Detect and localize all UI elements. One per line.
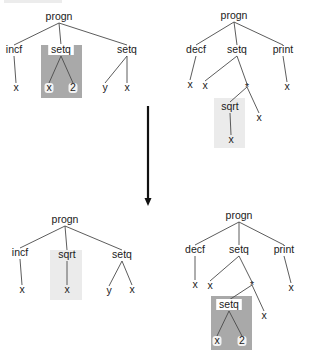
node-label: x <box>202 79 208 91</box>
node-label: x <box>256 111 262 123</box>
node-label: sqrt <box>221 100 239 112</box>
trees-layer: prognincfsetqsetqxx2yxprogndecfsetqprint… <box>6 9 295 350</box>
node-label: 2 <box>70 81 76 93</box>
tree-edge <box>105 56 127 83</box>
tree-edge <box>122 261 132 285</box>
node-label: decf <box>186 43 206 55</box>
tree-node: x <box>124 81 130 93</box>
tree-node: x <box>187 78 193 90</box>
tree-node: progn <box>52 213 79 225</box>
node-label: print <box>273 43 294 55</box>
tree-edge <box>284 256 291 283</box>
node-label: setq <box>117 43 137 55</box>
node-label: x <box>192 278 198 290</box>
node-label: x <box>187 78 193 90</box>
tree-node: y <box>102 81 108 93</box>
tree-parent-2: progndecfsetqprintxx*xsqrtxx <box>186 9 293 148</box>
arrow-head-icon <box>145 198 152 206</box>
tree-node: * <box>250 279 254 291</box>
node-label: progn <box>46 10 73 22</box>
node-label: x <box>288 281 294 293</box>
tree-node: incf <box>12 246 28 258</box>
node-label: incf <box>6 43 22 55</box>
tree-edge <box>210 256 239 281</box>
tree-node: setq <box>227 43 247 55</box>
tree-edge <box>239 222 284 245</box>
tree-edge <box>205 56 237 81</box>
tree-node: x <box>202 79 208 91</box>
node-label: y <box>102 81 108 93</box>
tree-node: print <box>274 243 295 255</box>
tree-node: progn <box>221 9 248 21</box>
tree-edge <box>234 22 283 45</box>
tree-node: x <box>288 281 294 293</box>
node-label: x <box>207 279 213 291</box>
tree-node: progn <box>46 10 73 22</box>
node-label: x <box>228 133 234 145</box>
tree-node: x <box>256 111 262 123</box>
tree-edge <box>20 226 65 248</box>
tree-edge <box>14 23 59 45</box>
node-label: * <box>245 81 249 93</box>
tree-parent-1: prognincfsetqsetqxx2yx <box>6 10 137 98</box>
tree-node: decf <box>185 243 205 255</box>
tree-node: print <box>273 43 294 55</box>
tree-edge <box>234 22 237 45</box>
tree-node: progn <box>226 209 253 221</box>
tree-edge <box>283 56 287 82</box>
tree-node: incf <box>6 43 22 55</box>
node-label: x <box>19 283 25 295</box>
node-label: incf <box>12 246 28 258</box>
node-label: setq <box>51 43 71 55</box>
node-label: 2 <box>239 334 245 346</box>
tree-edge <box>59 23 127 45</box>
tree-edge <box>20 259 22 285</box>
tree-node: setq <box>112 248 132 260</box>
tree-edge <box>65 226 122 250</box>
node-label: print <box>274 243 295 255</box>
tree-node: sqrt <box>221 100 239 112</box>
tree-node: x <box>284 80 290 92</box>
tree-node: x <box>13 81 19 93</box>
tree-node: setq <box>229 243 249 255</box>
node-label: y <box>106 284 112 296</box>
tree-edge <box>59 23 61 45</box>
node-label: x <box>261 309 267 321</box>
tree-edge <box>14 56 16 83</box>
tree-node: x <box>129 283 135 295</box>
tree-edge <box>65 226 67 250</box>
tree-node: x <box>64 283 70 295</box>
tree-node: setq <box>117 43 137 55</box>
node-label: x <box>129 283 135 295</box>
tree-node: x <box>207 279 213 291</box>
tree-node: x <box>19 283 25 295</box>
node-label: setq <box>219 298 239 310</box>
node-label: x <box>46 81 52 93</box>
tree-node: sqrt <box>58 248 76 260</box>
node-label: x <box>13 81 19 93</box>
tree-edge <box>109 261 122 286</box>
node-label: x <box>214 334 220 346</box>
crossover-arrow <box>145 106 152 206</box>
tree-edge <box>237 56 247 84</box>
node-label: setq <box>227 43 247 55</box>
tree-node: * <box>245 81 249 93</box>
node-label: progn <box>221 9 248 21</box>
tree-node: x <box>261 309 267 321</box>
node-label: x <box>64 283 70 295</box>
node-label: setq <box>112 248 132 260</box>
node-label: progn <box>226 209 253 221</box>
tree-offspring-2: progndecfsetqprintxx*xsetqxx2 <box>185 209 294 350</box>
tree-node: setq <box>216 298 242 310</box>
node-label: x <box>284 80 290 92</box>
node-label: decf <box>185 243 205 255</box>
tree-offspring-1: prognincfsqrtsetqxxyx <box>12 213 136 300</box>
tree-node: y <box>106 284 112 296</box>
tree-node: setq <box>48 43 74 55</box>
tree-edge <box>190 56 196 80</box>
node-label: setq <box>229 243 249 255</box>
node-label: x <box>124 81 130 93</box>
crossover-diagram: prognincfsetqsetqxx2yxprogndecfsetqprint… <box>0 0 309 362</box>
tree-edge <box>196 22 234 45</box>
node-label: progn <box>52 213 79 225</box>
